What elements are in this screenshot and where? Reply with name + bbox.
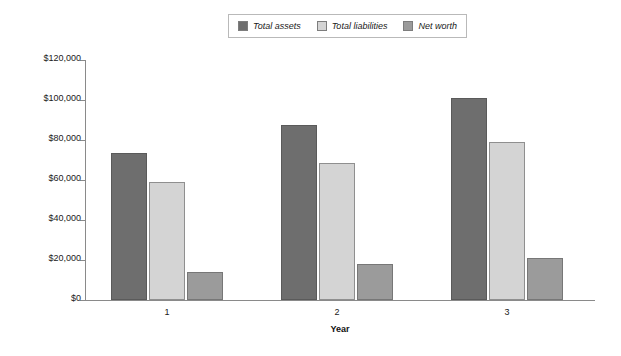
plot-area: $0$20,000$40,000$60,000$80,000$100,000$1…	[85, 60, 595, 300]
bar[interactable]	[187, 272, 223, 300]
bar[interactable]	[281, 125, 317, 300]
y-tick-label: $80,000	[48, 134, 81, 143]
legend-entry[interactable]: Net worth	[403, 21, 457, 31]
legend-entry[interactable]: Total liabilities	[317, 21, 388, 31]
legend-label: Total liabilities	[332, 22, 388, 31]
y-tick-label: $20,000	[48, 254, 81, 263]
bar-chart: Total assetsTotal liabilitiesNet worth $…	[0, 0, 621, 356]
bar-group	[111, 60, 223, 300]
legend-swatch-icon	[238, 21, 248, 31]
bar[interactable]	[111, 153, 147, 300]
bar-group	[451, 60, 563, 300]
bar[interactable]	[527, 258, 563, 300]
x-tick-label: 3	[431, 308, 583, 317]
x-axis-title: Year	[85, 325, 595, 334]
y-tick-label: $0	[71, 294, 81, 303]
legend-label: Total assets	[253, 22, 301, 31]
bar[interactable]	[149, 182, 185, 300]
bar[interactable]	[319, 163, 355, 300]
y-tick-label: $40,000	[48, 214, 81, 223]
legend-swatch-icon	[317, 21, 327, 31]
legend-entry[interactable]: Total assets	[238, 21, 301, 31]
bar[interactable]	[489, 142, 525, 300]
bar[interactable]	[451, 98, 487, 300]
x-tick-label: 1	[91, 308, 243, 317]
x-tick-label: 2	[261, 308, 413, 317]
bar-group	[281, 60, 393, 300]
y-axis-line	[85, 60, 86, 300]
bar[interactable]	[357, 264, 393, 300]
legend-label: Net worth	[418, 22, 457, 31]
legend-swatch-icon	[403, 21, 413, 31]
chart-legend: Total assetsTotal liabilitiesNet worth	[228, 14, 467, 38]
y-tick-label: $100,000	[43, 94, 81, 103]
x-axis-line	[85, 300, 595, 301]
y-tick-label: $60,000	[48, 174, 81, 183]
y-tick-label: $120,000	[43, 54, 81, 63]
